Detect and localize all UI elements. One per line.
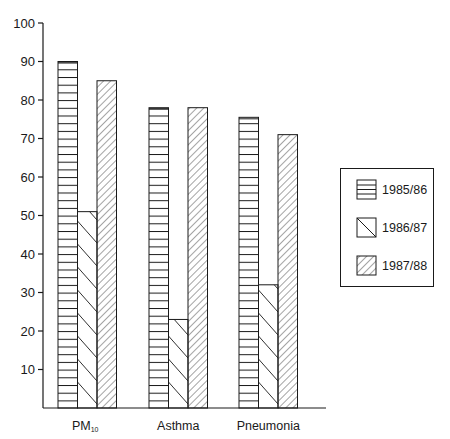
bars — [58, 62, 298, 409]
bar-1986-87 — [259, 285, 279, 408]
bar-1987-88 — [188, 108, 208, 408]
y-tick-label: 70 — [21, 131, 35, 146]
y-tick-label: 20 — [21, 324, 35, 339]
bar-1985-86 — [149, 108, 169, 408]
bar-group-asthma — [149, 108, 208, 408]
bar-1986-87 — [78, 212, 98, 408]
legend-label: 1986/87 — [382, 221, 427, 235]
grouped-bar-chart: 102030405060708090100 PM10AsthmaPneumoni… — [0, 0, 450, 439]
y-tick-label: 60 — [21, 170, 35, 185]
bar-outline — [78, 212, 98, 408]
y-axis: 102030405060708090100 — [13, 16, 43, 409]
bar-1987-88 — [97, 81, 117, 408]
bar-1986-87 — [169, 319, 189, 408]
bar-1987-88 — [278, 135, 298, 408]
legend-label: 1985/86 — [382, 183, 427, 197]
bar-group-pm10 — [58, 62, 117, 409]
y-tick-label: 100 — [13, 16, 35, 31]
x-category-label: PM10 — [72, 419, 99, 433]
bar-outline — [169, 319, 189, 408]
legend-item: 1987/88 — [357, 256, 427, 275]
x-category-label: Asthma — [157, 419, 199, 433]
legend-item: 1985/86 — [357, 180, 427, 199]
x-category-label: Pneumonia — [237, 419, 300, 433]
bar-1985-86 — [239, 117, 259, 408]
legend: 1985/861986/871987/88 — [341, 169, 434, 287]
legend-label: 1987/88 — [382, 259, 427, 273]
bar-group-pneumonia — [239, 117, 298, 408]
y-tick-label: 80 — [21, 93, 35, 108]
bar-1985-86 — [58, 62, 78, 409]
y-tick-label: 30 — [21, 285, 35, 300]
y-tick-label: 40 — [21, 247, 35, 262]
category-labels: PM10AsthmaPneumonia — [72, 419, 300, 433]
legend-item: 1986/87 — [357, 218, 427, 237]
y-tick-label: 10 — [21, 362, 35, 377]
y-tick-label: 90 — [21, 54, 35, 69]
legend-swatch — [357, 256, 376, 275]
y-tick-label: 50 — [21, 208, 35, 223]
